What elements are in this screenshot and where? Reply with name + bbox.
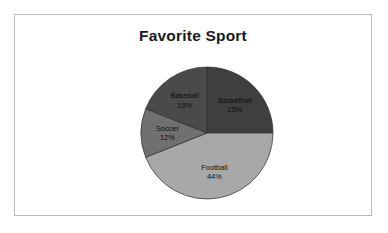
chart-title: Favorite Sport (15, 27, 371, 45)
chart-frame: Favorite Sport Basketball 25% Football 4… (14, 14, 372, 216)
pie-chart-svg (127, 53, 287, 213)
pie-slice-basketball (207, 67, 273, 133)
pie-chart: Basketball 25% Football 44% Soccer 12% B… (127, 53, 287, 213)
